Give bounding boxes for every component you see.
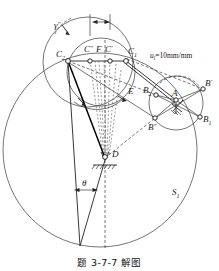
theta-arrow-right: [93, 188, 99, 192]
arc-b-top: [160, 76, 199, 86]
label-c-prime: C′: [105, 44, 113, 55]
label-b2: B2: [143, 85, 152, 97]
label-b-double-prime: B″: [148, 122, 157, 133]
label-a: A: [171, 88, 178, 98]
circle-s1: [3, 53, 197, 247]
label-c2: C2: [56, 49, 65, 61]
link-c2-bdoubleprime: [68, 62, 155, 118]
label-b-prime: B′: [205, 78, 213, 89]
label-e: E: [127, 86, 134, 96]
line-d-bottom: [80, 160, 105, 246]
label-d: D: [111, 149, 119, 159]
label-scale-note: ul=10mm/mm: [150, 51, 193, 61]
gamma-arrow-head: [66, 31, 71, 35]
dim-arrow-right: [105, 20, 111, 24]
node-b2: [154, 93, 158, 97]
label-f: F: [95, 44, 102, 54]
node-c2: [66, 59, 71, 64]
dim-arrow-left: [92, 20, 98, 24]
figure-root: γ″ C2 C″ F C′ C1 ul=10mm/mm E B2 A B′ B1…: [0, 0, 219, 271]
figure-caption: 题 3-7-7 解图: [0, 255, 219, 269]
node-c-double-prime: [88, 59, 92, 63]
node-b-double-prime: [153, 116, 157, 120]
node-c1: [124, 59, 129, 64]
label-c1: C1: [128, 46, 137, 58]
kinematics-diagram: γ″ C2 C″ F C′ C1 ul=10mm/mm E B2 A B′ B1…: [0, 0, 219, 271]
label-theta: θ: [82, 178, 87, 188]
node-a: [174, 98, 178, 102]
node-c-prime: [108, 59, 112, 63]
label-s1: S1: [172, 187, 180, 199]
node-b1: [198, 115, 202, 119]
label-b1: B1: [203, 114, 212, 126]
label-c-double-prime: C″: [84, 44, 93, 55]
label-gamma-double-prime: γ″: [54, 20, 61, 31]
